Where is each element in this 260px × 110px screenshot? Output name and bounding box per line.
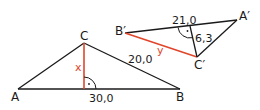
side-length-label-prime: 21,0: [172, 14, 197, 27]
side-cb-length-label: 20,0: [128, 53, 153, 66]
altitude-length-label-prime: 6,3: [195, 32, 213, 45]
altitude-x-label: x: [75, 61, 82, 74]
side-y-label: y: [157, 44, 164, 57]
triangle-abc: A B C 30,0 20,0 x: [11, 29, 184, 105]
side-cb: [84, 43, 180, 89]
vertex-label-a-prime: A′: [239, 9, 250, 23]
vertex-label-c-prime: C′: [194, 58, 205, 72]
geometry-diagram: A B C 30,0 20,0 x A′ B′ C′ 21,0 6,3 y: [0, 0, 260, 110]
right-angle-dot: [88, 83, 90, 85]
right-angle-arc: [84, 77, 96, 89]
vertex-label-b: B: [176, 90, 184, 104]
vertex-label-b-prime: B′: [115, 24, 126, 38]
right-angle-dot-prime: [187, 30, 189, 32]
vertex-label-a: A: [11, 90, 20, 104]
vertex-label-c: C: [80, 29, 88, 43]
base-length-label: 30,0: [89, 92, 114, 105]
